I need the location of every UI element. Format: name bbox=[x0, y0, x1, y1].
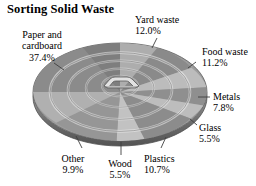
page-title: Sorting Solid Waste bbox=[7, 2, 114, 17]
slice-label-paper: Paper and cardboard 37.4% bbox=[4, 29, 80, 63]
slice-label-paper-line1: Paper and bbox=[4, 29, 80, 40]
slice-value-paper: 37.4% bbox=[4, 52, 80, 63]
slice-label-food-name: Food waste bbox=[202, 46, 248, 57]
slice-value-food: 11.2% bbox=[202, 57, 248, 68]
pie-chart-figure: Sorting Solid Waste Paper and cardboard … bbox=[0, 0, 256, 186]
slice-value-glass: 5.5% bbox=[199, 133, 221, 144]
slice-label-metals-name: Metals bbox=[213, 91, 240, 102]
slice-label-wood-name: Wood bbox=[100, 158, 140, 169]
slice-label-other-name: Other bbox=[52, 153, 94, 164]
slice-value-yard: 12.0% bbox=[135, 25, 179, 36]
slice-value-other: 9.9% bbox=[52, 164, 94, 175]
slice-value-wood: 5.5% bbox=[100, 169, 140, 180]
slice-label-paper-line2: cardboard bbox=[4, 40, 80, 51]
slice-label-glass: Glass 5.5% bbox=[199, 122, 221, 145]
slice-label-plastics-name: Plastics bbox=[144, 153, 175, 164]
slice-label-glass-name: Glass bbox=[199, 122, 221, 133]
slice-label-metals: Metals 7.8% bbox=[213, 91, 240, 114]
slice-label-yard-name: Yard waste bbox=[135, 14, 179, 25]
slice-label-wood: Wood 5.5% bbox=[100, 158, 140, 181]
slice-label-plastics: Plastics 10.7% bbox=[144, 153, 175, 176]
slice-value-plastics: 10.7% bbox=[144, 164, 175, 175]
slice-label-yard: Yard waste 12.0% bbox=[135, 14, 179, 37]
slice-label-other: Other 9.9% bbox=[52, 153, 94, 176]
slice-value-metals: 7.8% bbox=[213, 102, 240, 113]
slice-label-food: Food waste 11.2% bbox=[202, 46, 248, 69]
